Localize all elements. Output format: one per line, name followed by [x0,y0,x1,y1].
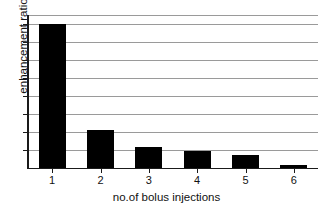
y-tick [23,24,28,25]
x-tick-label: 2 [91,174,111,186]
x-tick-label: 4 [187,174,207,186]
x-tick [149,169,150,173]
x-tick [197,169,198,173]
bar [184,151,211,168]
gridline [28,24,318,25]
gridline [28,150,318,151]
bar [39,24,66,168]
x-axis-line [27,168,318,170]
y-tick [23,114,28,115]
gridline [28,114,318,115]
gridline [28,60,318,61]
gridline [28,78,318,79]
y-tick [23,96,28,97]
bar-chart: enhancement ratio 123456 no.of bolus inj… [0,0,333,213]
bar [232,155,259,169]
x-tick-label: 3 [139,174,159,186]
y-tick [23,132,28,133]
y-tick [23,60,28,61]
x-tick-label: 5 [236,174,256,186]
y-tick [23,78,28,79]
gridline [28,42,318,43]
x-axis-label: no.of bolus injections [0,191,333,203]
x-tick-label: 6 [284,174,304,186]
gridline [28,96,318,97]
x-tick [101,169,102,173]
plot-top-border [28,15,318,16]
y-axis-line [27,15,29,169]
y-tick [23,150,28,151]
x-tick [52,169,53,173]
x-tick-label: 1 [42,174,62,186]
bar [87,130,114,168]
x-tick [294,169,295,173]
x-tick [246,169,247,173]
gridline [28,132,318,133]
y-tick [23,42,28,43]
bar [135,147,162,168]
plot-area [28,15,318,168]
